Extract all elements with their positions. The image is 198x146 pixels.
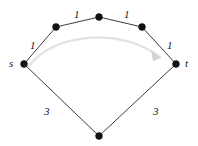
edge-weight-s-b1: 3	[44, 106, 50, 117]
path-arrow-group	[29, 37, 161, 66]
graph-figure: s t 1 1 1 1 3 3	[0, 0, 198, 146]
node-t	[173, 61, 180, 68]
graph-canvas	[0, 0, 198, 146]
node-u3	[139, 24, 146, 31]
edge-weight-u2-u3: 1	[124, 9, 130, 20]
edge-weight-s-u1: 1	[30, 40, 36, 51]
edge-s-b1	[24, 64, 99, 136]
node-u1	[53, 24, 60, 31]
node-b1	[96, 133, 103, 140]
edge-weight-b1-t: 3	[153, 106, 159, 117]
edge-group	[24, 17, 176, 136]
edge-weight-u1-u2: 1	[74, 9, 80, 20]
node-s	[21, 61, 28, 68]
node-group	[21, 14, 180, 140]
node-u2	[96, 14, 103, 21]
node-label-s: s	[9, 58, 13, 69]
node-label-t: t	[185, 58, 188, 69]
edge-s-u1	[24, 27, 56, 64]
edge-weight-u3-t: 1	[167, 40, 173, 51]
edge-b1-t	[99, 64, 176, 136]
edge-u2-u3	[99, 17, 142, 27]
s-to-t-path-arrow-curve	[29, 37, 160, 66]
